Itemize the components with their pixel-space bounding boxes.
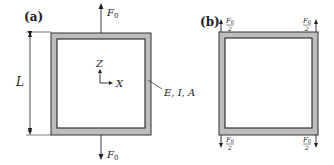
dimension-label-l: L bbox=[15, 75, 24, 89]
arrow-up-icon bbox=[314, 19, 318, 24]
arrow-up-icon bbox=[99, 3, 104, 9]
diagram-canvas: (a) L F0 F0 Z X E, I, A (b) bbox=[0, 0, 334, 165]
panel-b-label: (b) bbox=[200, 15, 220, 29]
svg-text:2: 2 bbox=[304, 25, 309, 32]
property-label: E, I, A bbox=[163, 87, 195, 98]
panel-a: (a) L F0 F0 Z X E, I, A bbox=[15, 3, 195, 162]
force-bottom-label: F0 bbox=[106, 149, 118, 162]
force-top-label: F0 bbox=[106, 7, 118, 20]
axis-x-label: X bbox=[115, 78, 124, 89]
arrow-down-icon bbox=[99, 154, 104, 160]
svg-text:2: 2 bbox=[227, 144, 232, 151]
svg-text:F0: F0 bbox=[225, 136, 234, 144]
svg-text:F0: F0 bbox=[302, 136, 311, 144]
arrow-down-icon bbox=[314, 143, 318, 148]
panel-a-label: (a) bbox=[24, 10, 43, 24]
svg-text:F0: F0 bbox=[302, 17, 311, 25]
frame-b-inner bbox=[225, 38, 312, 128]
svg-text:F0: F0 bbox=[225, 17, 234, 25]
frame-a-inner bbox=[57, 39, 145, 128]
force-br-label: F0 2 bbox=[302, 136, 311, 151]
force-bl-label: F0 2 bbox=[225, 136, 234, 151]
force-tr-label: F0 2 bbox=[302, 17, 311, 32]
axis-z-label: Z bbox=[95, 58, 104, 69]
panel-b: (b) F0 2 F0 2 F0 2 F0 bbox=[200, 15, 318, 151]
svg-text:2: 2 bbox=[227, 25, 232, 32]
force-tl-label: F0 2 bbox=[225, 17, 234, 32]
svg-text:2: 2 bbox=[304, 144, 309, 151]
arrow-down-icon bbox=[219, 143, 223, 148]
